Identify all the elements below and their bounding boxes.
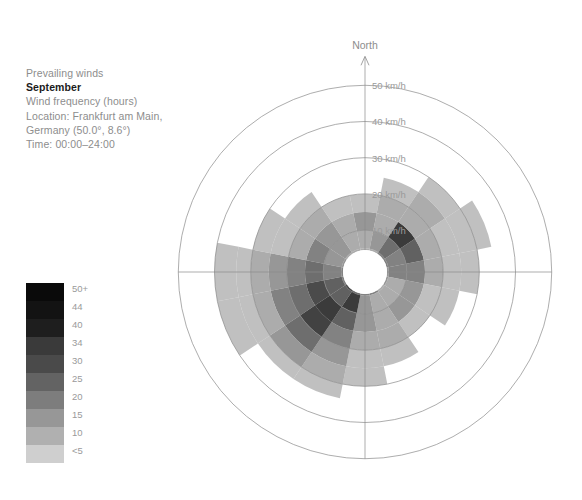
radial-tick-label: 50 km/h — [372, 80, 406, 91]
wind-rose-chart: 10 km/h20 km/h30 km/h40 km/h50 km/hNorth — [0, 0, 582, 500]
radial-tick-label: 40 km/h — [372, 116, 406, 127]
center-hole — [343, 250, 387, 294]
radial-tick-label: 20 km/h — [372, 189, 406, 200]
north-label: North — [352, 39, 378, 51]
radial-tick-label: 30 km/h — [372, 153, 406, 164]
radial-tick-label: 10 km/h — [372, 225, 406, 236]
